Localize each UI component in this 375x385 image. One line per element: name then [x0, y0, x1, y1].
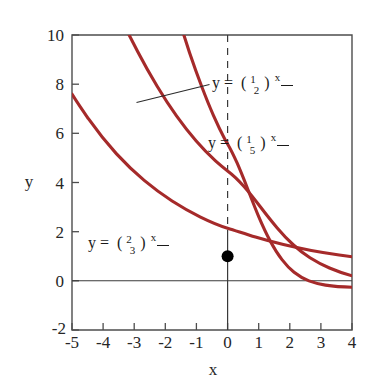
- y-tick-label-4: 4: [56, 174, 65, 193]
- intersection-point-dot: [222, 250, 234, 262]
- y-tick-label-2: 2: [56, 223, 65, 242]
- curve-two-thirds: [72, 94, 352, 257]
- y-tick-label-10: 10: [47, 26, 64, 45]
- x-tick-label-1: 1: [254, 333, 263, 352]
- label-half-denominator: 2: [254, 84, 260, 96]
- label-half-open-paren: (: [241, 74, 246, 92]
- label-twothirds-exponent: x: [151, 231, 157, 243]
- label-half-lhs: y =: [212, 74, 233, 92]
- x-tick-labels: -5 -4 -3 -2 -1 0 1 2 3 4: [65, 333, 357, 352]
- x-tick-label-neg2: -2: [158, 333, 172, 352]
- leader-line-one-half: [137, 85, 210, 103]
- label-half-close-paren: ): [264, 74, 269, 92]
- annotation-label-one-half: y = ( 1 2 ) x: [212, 69, 293, 97]
- x-tick-label-neg5: -5: [65, 333, 79, 352]
- x-tick-label-0: 0: [223, 333, 232, 352]
- label-half-exponent: x: [275, 71, 281, 83]
- chart-canvas: 10 8 6 4 2 0 -2 -5 -4 -3 -2 -1 0 1 2 3 4…: [0, 0, 375, 385]
- y-tick-label-neg2: -2: [52, 319, 66, 338]
- label-fifth-lhs: y =: [208, 134, 229, 152]
- x-tick-label-neg3: -3: [127, 333, 141, 352]
- x-axis-ticks: [72, 323, 352, 330]
- x-tick-label-2: 2: [286, 333, 295, 352]
- y-axis-title: y: [25, 172, 34, 191]
- annotation-label-one-fifth: y = ( 1 5 ) x: [208, 129, 289, 157]
- y-tick-label-8: 8: [56, 75, 65, 94]
- annotation-label-two-thirds: y = ( 2 3 ) x: [88, 229, 169, 257]
- svg-text:y = ( 1: y = ( 1 2 ) x: [212, 69, 281, 97]
- x-tick-label-3: 3: [317, 333, 326, 352]
- label-fifth-close-paren: ): [260, 134, 265, 152]
- svg-text:y = ( 2: y = ( 2 3 ) x: [88, 229, 157, 257]
- y-tick-labels: 10 8 6 4 2 0 -2: [47, 26, 66, 338]
- label-twothirds-denominator: 3: [130, 244, 136, 256]
- x-tick-label-neg1: -1: [189, 333, 203, 352]
- svg-text:y = ( 1: y = ( 1 5 ) x: [208, 129, 277, 157]
- x-tick-label-4: 4: [348, 333, 357, 352]
- y-tick-label-6: 6: [56, 124, 65, 143]
- label-twothirds-close-paren: ): [140, 234, 145, 252]
- x-tick-label-neg4: -4: [96, 333, 111, 352]
- x-axis-title: x: [209, 360, 218, 379]
- label-twothirds-lhs: y =: [88, 234, 109, 252]
- label-fifth-exponent: x: [271, 131, 277, 143]
- curve-one-half: [128, 33, 352, 276]
- label-fifth-denominator: 5: [250, 144, 256, 156]
- y-axis-ticks: [72, 35, 79, 330]
- exponential-decay-chart-figure: 10 8 6 4 2 0 -2 -5 -4 -3 -2 -1 0 1 2 3 4…: [0, 0, 375, 385]
- curve-one-fifth: [183, 33, 352, 287]
- label-twothirds-open-paren: (: [117, 234, 122, 252]
- label-fifth-open-paren: (: [237, 134, 242, 152]
- y-tick-label-0: 0: [56, 272, 65, 291]
